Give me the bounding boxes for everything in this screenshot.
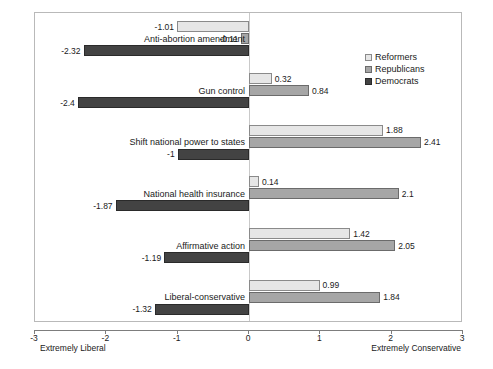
bar-republicans[interactable] bbox=[249, 85, 309, 96]
bar-value-label: 2.05 bbox=[395, 241, 415, 250]
axis-tick-label: -1 bbox=[173, 334, 181, 343]
bar-row: -2.32 bbox=[84, 45, 249, 56]
axis-tick-label: -2 bbox=[102, 334, 110, 343]
legend-swatch-republicans-icon bbox=[365, 66, 372, 73]
category-label: Anti-abortion amendment bbox=[144, 34, 245, 43]
bar-row: 1.88 bbox=[249, 125, 383, 136]
bar-row: 0.84 bbox=[249, 85, 309, 96]
bar-value-label: -1.19 bbox=[142, 253, 164, 262]
legend-label-reformers: Reformers bbox=[375, 52, 417, 64]
bar-reformers[interactable] bbox=[249, 73, 272, 84]
bar-value-label: -1.32 bbox=[132, 305, 154, 314]
bar-value-label: 0.14 bbox=[259, 178, 279, 187]
bar-row: 2.41 bbox=[249, 137, 421, 148]
bar-row: -1.87 bbox=[116, 200, 249, 211]
axis-tick-label: 1 bbox=[317, 334, 322, 343]
bar-row: 2.1 bbox=[249, 188, 399, 199]
axis-tick-label: -3 bbox=[30, 334, 38, 343]
bar-row: 2.05 bbox=[249, 240, 395, 251]
bar-value-label: 1.42 bbox=[350, 229, 370, 238]
legend-label-republicans: Republicans bbox=[375, 64, 425, 76]
bar-reformers[interactable] bbox=[177, 21, 249, 32]
bar-value-label: -1.01 bbox=[155, 23, 177, 32]
bar-republicans[interactable] bbox=[249, 240, 395, 251]
bar-value-label: 0.99 bbox=[320, 281, 340, 290]
bar-value-label: 1.88 bbox=[383, 126, 403, 135]
legend-item-republicans[interactable]: Republicans bbox=[365, 64, 425, 76]
bar-row: 0.32 bbox=[249, 73, 272, 84]
bar-row: -2.4 bbox=[78, 97, 249, 108]
bar-reformers[interactable] bbox=[249, 176, 259, 187]
bar-value-label: -1 bbox=[167, 150, 178, 159]
legend-label-democrats: Democrats bbox=[375, 76, 419, 88]
axis-tick-label: 0 bbox=[246, 334, 251, 343]
axis-tick-label: 2 bbox=[388, 334, 393, 343]
bar-row: 0.14 bbox=[249, 176, 259, 187]
axis-label-right: Extremely Conservative bbox=[371, 344, 461, 353]
legend-swatch-reformers-icon bbox=[365, 54, 372, 61]
bar-row: -1 bbox=[178, 149, 249, 160]
bar-republicans[interactable] bbox=[249, 188, 399, 199]
bar-row: 1.84 bbox=[249, 292, 380, 303]
legend: Reformers Republicans Democrats bbox=[362, 50, 428, 90]
bar-value-label: -2.32 bbox=[61, 47, 83, 56]
bar-chart: -1.01-0.11-2.32Anti-abortion amendment0.… bbox=[0, 0, 493, 369]
bar-row: 1.42 bbox=[249, 228, 350, 239]
bar-value-label: 2.1 bbox=[399, 190, 414, 199]
bar-row: -1.01 bbox=[177, 21, 249, 32]
bar-republicans[interactable] bbox=[249, 137, 421, 148]
category-label: Affirmative action bbox=[176, 241, 245, 250]
bar-democrats[interactable] bbox=[78, 97, 249, 108]
bar-value-label: 2.41 bbox=[421, 138, 441, 147]
category-label: Liberal-conservative bbox=[164, 293, 245, 302]
legend-item-democrats[interactable]: Democrats bbox=[365, 76, 425, 88]
bar-value-label: -2.4 bbox=[60, 98, 78, 107]
axis-label-left: Extremely Liberal bbox=[40, 344, 106, 353]
bar-republicans[interactable] bbox=[249, 292, 380, 303]
bar-democrats[interactable] bbox=[116, 200, 249, 211]
bar-value-label: 0.84 bbox=[309, 86, 329, 95]
bar-democrats[interactable] bbox=[155, 304, 249, 315]
category-label: Shift national power to states bbox=[129, 138, 245, 147]
legend-item-reformers[interactable]: Reformers bbox=[365, 52, 425, 64]
bar-row: 0.99 bbox=[249, 280, 320, 291]
bar-democrats[interactable] bbox=[164, 252, 249, 263]
bar-value-label: 1.84 bbox=[380, 293, 400, 302]
axis-tick-label: 3 bbox=[460, 334, 465, 343]
bar-value-label: 0.32 bbox=[272, 74, 292, 83]
bar-democrats[interactable] bbox=[84, 45, 249, 56]
bar-row: -1.19 bbox=[164, 252, 249, 263]
bar-value-label: -1.87 bbox=[93, 202, 115, 211]
category-label: National health insurance bbox=[143, 189, 245, 198]
bar-reformers[interactable] bbox=[249, 125, 383, 136]
legend-swatch-democrats-icon bbox=[365, 78, 372, 85]
bar-reformers[interactable] bbox=[249, 228, 350, 239]
zero-baseline bbox=[249, 13, 250, 321]
bar-democrats[interactable] bbox=[178, 149, 249, 160]
category-label: Gun control bbox=[198, 86, 245, 95]
bar-row: -1.32 bbox=[155, 304, 249, 315]
bar-reformers[interactable] bbox=[249, 280, 320, 291]
